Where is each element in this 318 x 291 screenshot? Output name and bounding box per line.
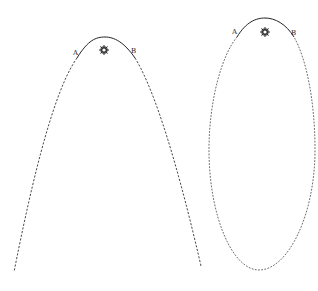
parabolic-orbit: A B (14, 37, 201, 272)
parabola-right-branch (135, 58, 201, 266)
sun-icon (99, 45, 109, 55)
label-b: B (291, 29, 296, 37)
label-a: A (72, 49, 79, 57)
parabola-left-branch (14, 58, 77, 272)
sun-icon (260, 27, 270, 37)
label-a: A (231, 28, 238, 36)
orbit-diagram: A B A B (0, 0, 318, 291)
label-b: B (131, 47, 136, 55)
elliptical-orbit: A B (209, 18, 315, 270)
ellipse-dashed-body (209, 37, 315, 270)
